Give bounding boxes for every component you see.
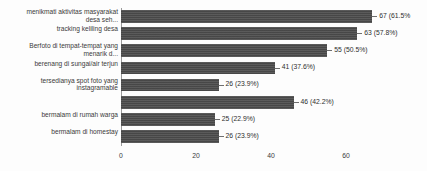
value-label: 25 (22.9%) xyxy=(222,114,255,123)
plot-area: menikmati aktivitas masyarakat desa seh.… xyxy=(121,8,427,146)
leader-line xyxy=(215,119,220,120)
bar xyxy=(121,27,357,40)
bar-row: bermalam di homestay 26 (23.9%) xyxy=(121,128,427,144)
category-label: berenang di sungai/air terjun xyxy=(0,60,118,68)
bar-row: tersedianya spot foto yang instagramable… xyxy=(121,77,427,93)
value-label: 26 (23.9%) xyxy=(226,131,259,140)
category-label: bermalam di rumah warga xyxy=(0,111,118,119)
x-tick-label: 0 xyxy=(119,152,123,159)
category-label: menikmati aktivitas masyarakat desa seh.… xyxy=(0,8,118,23)
category-label: bermalam di homestay xyxy=(0,128,118,136)
bar xyxy=(121,113,215,126)
bar xyxy=(121,96,294,109)
value-label: 63 (57.8%) xyxy=(364,28,397,37)
category-label: Berfoto di tempat-tempat yang menarik d.… xyxy=(0,42,118,57)
leader-line xyxy=(357,33,362,34)
x-axis: 0 20 40 60 xyxy=(0,146,427,171)
bar-row: berenang di sungai/air terjun 41 (37.6%) xyxy=(121,60,427,76)
leader-line xyxy=(294,102,299,103)
x-tick-label: 60 xyxy=(342,152,350,159)
bar xyxy=(121,44,327,57)
leader-line xyxy=(219,85,224,86)
x-tick-label: 40 xyxy=(267,152,275,159)
bar-row: 46 (42.2%) xyxy=(121,94,427,110)
leader-line xyxy=(372,16,377,17)
bar xyxy=(121,79,219,92)
leader-line xyxy=(327,50,332,51)
value-label: 46 (42.2%) xyxy=(301,97,334,106)
value-label: 55 (50.5%) xyxy=(334,45,367,54)
bar-row: bermalam di rumah warga 25 (22.9%) xyxy=(121,111,427,127)
bar-chart: menikmati aktivitas masyarakat desa seh.… xyxy=(0,0,427,171)
value-label: 67 (61.5% xyxy=(379,11,410,20)
bar xyxy=(121,62,275,75)
category-label: tersedianya spot foto yang instagramable xyxy=(0,77,118,92)
bar-row: menikmati aktivitas masyarakat desa seh.… xyxy=(121,8,427,24)
bar-row: Berfoto di tempat-tempat yang menarik d.… xyxy=(121,42,427,58)
bar-row: tracking keliling desa 63 (57.8%) xyxy=(121,25,427,41)
x-tick-label: 20 xyxy=(192,152,200,159)
bar xyxy=(121,10,372,23)
bar xyxy=(121,130,219,143)
leader-line xyxy=(219,136,224,137)
value-label: 26 (23.9%) xyxy=(226,79,259,88)
leader-line xyxy=(275,68,280,69)
value-label: 41 (37.6%) xyxy=(282,62,315,71)
category-label: tracking keliling desa xyxy=(0,25,118,33)
